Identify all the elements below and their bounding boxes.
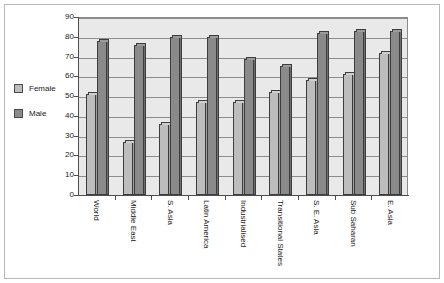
bar-male [244,17,254,195]
legend-swatch-female [14,84,23,93]
y-tick-label: 40 [65,112,74,120]
y-tick-mark [74,57,78,58]
bar-side-3d [180,35,182,195]
y-tick-label: 50 [65,92,74,100]
x-tick-label: Middle East [129,200,137,242]
y-tick-mark [74,96,78,97]
bar-side-3d [107,39,109,195]
x-tick-mark [335,196,336,200]
bar-top-3d [246,57,256,60]
bar-body [379,53,389,195]
legend-swatch-male [14,109,23,118]
y-tick-mark [74,175,78,176]
bar-male [207,17,217,195]
bar-side-3d [254,57,256,195]
y-tick-label: 80 [65,33,74,41]
x-axis-line [78,195,409,196]
bar-top-3d [136,43,146,46]
bar-side-3d [327,31,329,195]
y-tick-label: 20 [65,151,74,159]
y-axis-ticks: 0102030405060708090 [56,0,74,283]
bar-side-3d [400,29,402,195]
bar-body [196,102,206,195]
bar-body [123,142,133,195]
x-tick-label: Transitional States [276,200,284,266]
bar-female [86,17,96,195]
bar-body [134,45,144,195]
bar-top-3d [392,29,402,32]
bar-male [390,17,400,195]
x-tick-label: Latin America [202,200,210,248]
bar-top-3d [282,64,292,67]
bar-male [134,17,144,195]
bar-body [86,94,96,195]
x-tick-label: S. Asia [166,200,174,225]
plot-area [78,17,408,195]
y-tick-mark [74,136,78,137]
y-tick-mark [74,17,78,18]
bar-body [280,66,290,195]
y-tick-mark [74,116,78,117]
bar-body [159,124,169,195]
y-tick-label: 70 [65,53,74,61]
bar-top-3d [209,35,219,38]
bar-body [244,59,254,195]
bar-top-3d [172,35,182,38]
x-tick-label: E. Asia [386,200,394,225]
bar-top-3d [99,39,109,42]
bar-side-3d [290,64,292,195]
y-axis-line [78,17,79,196]
bar-top-3d [319,31,329,34]
bar-body [343,74,353,195]
bar-body [233,102,243,195]
x-tick-mark [298,196,299,200]
bar-side-3d [364,29,366,195]
bar-female [196,17,206,195]
bar-female [159,17,169,195]
x-tick-mark [115,196,116,200]
bar-top-3d [356,29,366,32]
bar-female [269,17,279,195]
y-tick-label: 90 [65,13,74,21]
x-tick-mark [188,196,189,200]
bar-female [123,17,133,195]
x-tick-label: Sub Saharan [349,200,357,247]
x-tick-mark [261,196,262,200]
y-tick-mark [74,37,78,38]
y-tick-mark [74,195,78,196]
bar-body [354,31,364,195]
bar-male [354,17,364,195]
bar-body [170,37,180,195]
bar-male [97,17,107,195]
bar-body [97,41,107,195]
bar-male [280,17,290,195]
x-tick-mark [225,196,226,200]
y-tick-mark [74,155,78,156]
bar-female [233,17,243,195]
x-tick-label: Industrialised [239,200,247,247]
bar-female [306,17,316,195]
bar-male [170,17,180,195]
x-tick-mark [151,196,152,200]
y-tick-mark [74,76,78,77]
x-tick-mark [371,196,372,200]
bar-body [317,33,327,195]
bar-body [269,92,279,195]
bar-side-3d [144,43,146,195]
bar-male [317,17,327,195]
y-tick-label: 30 [65,132,74,140]
y-tick-label: 60 [65,72,74,80]
legend-label-male: Male [29,109,46,118]
bar-body [207,37,217,195]
bar-female [379,17,389,195]
bar-chart-figure: Female Male 0102030405060708090 WorldMid… [0,0,444,283]
bar-female [343,17,353,195]
y-tick-label: 10 [65,171,74,179]
bar-body [306,80,316,195]
bar-body [390,31,400,195]
x-tick-label: World [92,200,100,221]
x-tick-label: S. E. Asia [312,200,320,235]
legend-label-female: Female [29,84,56,93]
bar-side-3d [217,35,219,195]
